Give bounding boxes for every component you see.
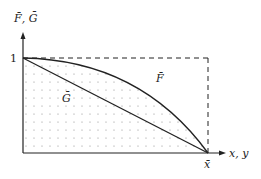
x-tick: x̄ [204, 158, 211, 171]
y-tick-1: 1 [10, 52, 17, 65]
y-axis-label: F̄, Ḡ [13, 11, 38, 25]
line-G-label: Ḡ [62, 91, 71, 105]
curve-F-label: F̄ [155, 72, 164, 85]
x-axis-label: x, y [229, 147, 249, 160]
y-axis-arrow-icon [21, 32, 26, 39]
diagram: F̄, Ḡ 1 F̄ Ḡ x̄ x, y [0, 0, 261, 179]
x-axis-arrow-icon [219, 151, 226, 156]
